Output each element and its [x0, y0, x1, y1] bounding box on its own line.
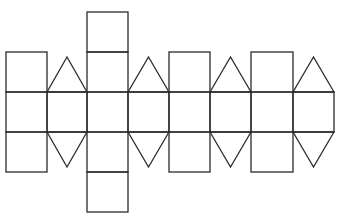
- band-square: [169, 92, 210, 132]
- band-square: [87, 92, 128, 132]
- bottom-triangle: [47, 132, 87, 167]
- band-square: [47, 92, 87, 132]
- polyhedron-net-diagram: [0, 0, 337, 214]
- bottom-triangle: [293, 132, 334, 167]
- top-triangle: [128, 57, 169, 92]
- top-triangle: [293, 57, 334, 92]
- top-square: [87, 12, 128, 52]
- band-square: [6, 92, 47, 132]
- top-square: [6, 52, 47, 92]
- top-triangle: [210, 57, 251, 92]
- bottom-square: [251, 132, 293, 172]
- top-square: [169, 52, 210, 92]
- top-triangle: [47, 57, 87, 92]
- bottom-triangle: [128, 132, 169, 167]
- band-square: [128, 92, 169, 132]
- bottom-square: [87, 132, 128, 172]
- band-square: [210, 92, 251, 132]
- bottom-square: [169, 132, 210, 172]
- top-square: [87, 52, 128, 92]
- bottom-triangle: [210, 132, 251, 167]
- bottom-square: [6, 132, 47, 172]
- bottom-square: [87, 172, 128, 212]
- band-square: [251, 92, 293, 132]
- top-square: [251, 52, 293, 92]
- band-square: [293, 92, 334, 132]
